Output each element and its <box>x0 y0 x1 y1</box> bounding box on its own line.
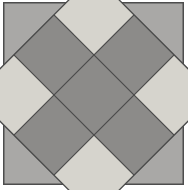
figure-canvas <box>0 0 188 190</box>
quilt-pattern-svg <box>0 0 188 190</box>
